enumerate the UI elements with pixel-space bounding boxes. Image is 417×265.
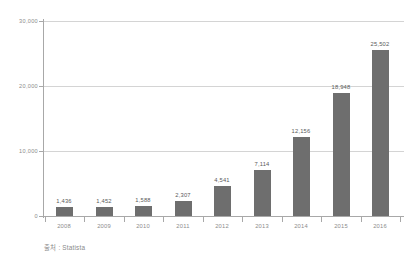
x-tick-mark [45,217,46,222]
y-tick-text: 10,000 [0,148,38,154]
x-axis-label-2016: 2016 [357,223,403,229]
x-axis-line [43,216,404,217]
bar-value-2016: 25,502 [357,41,403,47]
bar-value-2015: 18,948 [318,84,364,90]
bar-2015 [333,93,350,216]
y-tick-text: 30,000 [0,18,38,24]
bar-2011 [175,201,192,216]
bar-value-2011: 2,307 [160,192,206,198]
x-tick-mark [203,217,204,222]
x-tick-mark [282,217,283,222]
y-tick-text: 20,000 [0,83,38,89]
bar-2009 [96,207,113,216]
bar-2013 [254,170,271,216]
bar-2014 [293,137,310,216]
x-tick-mark [124,217,125,222]
gridline-30000 [43,21,404,22]
x-tick-mark [163,217,164,222]
bar-value-2013: 7,114 [239,161,285,167]
bar-2010 [135,206,152,216]
bar-2008 [56,207,73,216]
x-tick-mark [400,217,401,222]
x-tick-mark [321,217,322,222]
x-tick-mark [242,217,243,222]
bar-value-2014: 12,156 [278,128,324,134]
bar-2016 [372,50,389,216]
x-tick-mark [84,217,85,222]
source-note: 출처 : Statista [44,243,85,252]
bar-2012 [214,186,231,216]
bar-chart: 30,000 20,000 10,000 0 1,436 1,452 1,588… [0,0,417,265]
y-tick-text: 0 [0,213,38,219]
x-tick-mark [361,217,362,222]
y-axis-line [43,19,44,218]
bar-value-2012: 4,541 [199,177,245,183]
